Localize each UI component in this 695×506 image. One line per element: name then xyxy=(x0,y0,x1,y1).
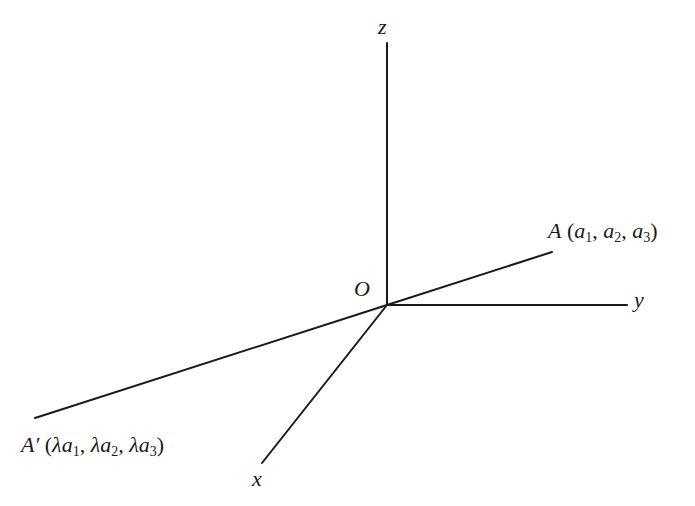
point-a-prime-name: A′ xyxy=(21,432,39,457)
point-a-label: A (a1, a2, a3) xyxy=(548,220,658,245)
z-axis-label: z xyxy=(378,16,387,38)
comma: , xyxy=(80,432,91,457)
coord-a: a xyxy=(62,432,73,457)
close-paren: ) xyxy=(650,218,657,243)
comma: , xyxy=(118,432,129,457)
coordinate-diagram xyxy=(0,0,695,506)
x-axis-label: x xyxy=(252,468,262,490)
close-paren: ) xyxy=(157,432,164,457)
y-axis-label: y xyxy=(634,289,644,311)
comma: , xyxy=(621,218,632,243)
line-oa xyxy=(387,252,552,305)
point-a-prime-label: A′ (λa1, λa2, λa3) xyxy=(21,434,164,459)
subscript-1: 1 xyxy=(73,444,80,459)
open-paren: ( xyxy=(561,218,574,243)
subscript-3: 3 xyxy=(150,444,157,459)
open-paren: ( xyxy=(39,432,52,457)
coord-a: a xyxy=(574,218,585,243)
lambda: λ xyxy=(91,432,101,457)
coord-a: a xyxy=(603,218,614,243)
coord-a: a xyxy=(139,432,150,457)
comma: , xyxy=(592,218,603,243)
point-a-name: A xyxy=(548,218,561,243)
coord-a: a xyxy=(100,432,111,457)
lambda: λ xyxy=(129,432,139,457)
coord-a: a xyxy=(632,218,643,243)
lambda: λ xyxy=(52,432,62,457)
origin-label: O xyxy=(354,278,370,300)
line-oa-prime xyxy=(35,305,387,418)
x-axis xyxy=(262,305,387,463)
